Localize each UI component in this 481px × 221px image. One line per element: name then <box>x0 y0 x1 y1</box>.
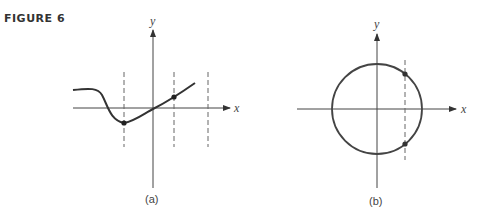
function-curve <box>73 83 195 123</box>
intersection-point <box>402 141 407 146</box>
x-axis-label: x <box>233 101 240 115</box>
intersection-point <box>121 120 126 125</box>
panel-a: x y (a) <box>73 14 240 205</box>
y-axis-label: y <box>149 14 156 28</box>
y-axis-label: y <box>373 17 380 31</box>
figure-canvas: x y (a) x y (b) <box>0 0 481 221</box>
panel-caption: (b) <box>369 195 382 207</box>
panel-caption: (a) <box>145 193 158 205</box>
intersection-point <box>402 71 407 76</box>
panel-b: x y (b) <box>297 17 467 207</box>
x-axis-label: x <box>460 102 467 116</box>
intersection-point <box>171 94 176 99</box>
